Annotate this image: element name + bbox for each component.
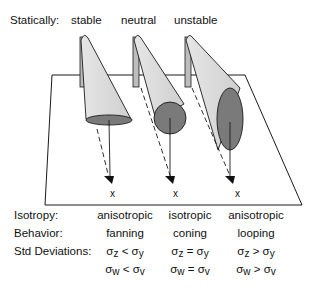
sigma-relation-neutral-2: σw = σv bbox=[160, 263, 220, 277]
x-marker-neutral: x bbox=[173, 188, 178, 199]
isotropy-label: Isotropy: bbox=[14, 209, 58, 221]
isotropy-stable: anisotropic bbox=[93, 209, 157, 221]
sigma-relation-stable-2: σw < σv bbox=[93, 263, 157, 277]
sigma-relation-stable-1: σz < σy bbox=[93, 245, 157, 259]
x-marker-unstable: x bbox=[235, 188, 240, 199]
std-deviations-label: Std Deviations: bbox=[14, 245, 91, 257]
sigma-relation-neutral-1: σz = σy bbox=[160, 245, 220, 259]
isotropy-unstable: anisotropic bbox=[224, 209, 288, 221]
behavior-neutral: coning bbox=[160, 227, 220, 239]
sigma-relation-unstable-2: σw > σv bbox=[224, 263, 288, 277]
isotropy-neutral: isotropic bbox=[160, 209, 220, 221]
behavior-label: Behavior: bbox=[14, 227, 63, 239]
x-marker-stable: x bbox=[110, 188, 115, 199]
behavior-stable: fanning bbox=[93, 227, 157, 239]
behavior-unstable: looping bbox=[224, 227, 288, 239]
sigma-relation-unstable-1: σz > σy bbox=[224, 245, 288, 259]
